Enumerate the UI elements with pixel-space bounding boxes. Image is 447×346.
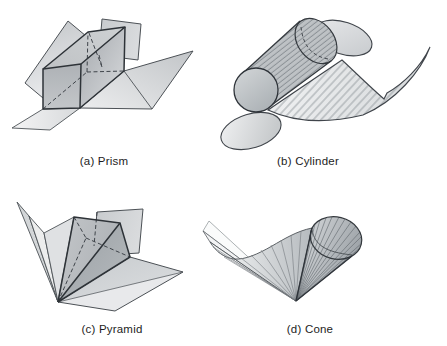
label-cylinder: (b) Cylinder [277,155,339,167]
prism-flap-bottom [12,108,80,130]
label-pyramid: (c) Pyramid [82,323,143,335]
label-cone: (d) Cone [287,323,333,335]
prism-face-front [43,64,81,109]
cone-figure [203,211,366,301]
figure-canvas: (a) Prism (b) Cylinder (c) Pyramid (d) C… [0,0,447,346]
prism-figure [12,19,193,130]
label-prism: (a) Prism [80,155,128,167]
figure-unfolding-solids: (a) Prism (b) Cylinder (c) Pyramid (d) C… [0,0,447,346]
cylinder-face-front [234,68,278,112]
pyramid-figure [17,202,183,311]
cylinder-figure [216,10,430,156]
